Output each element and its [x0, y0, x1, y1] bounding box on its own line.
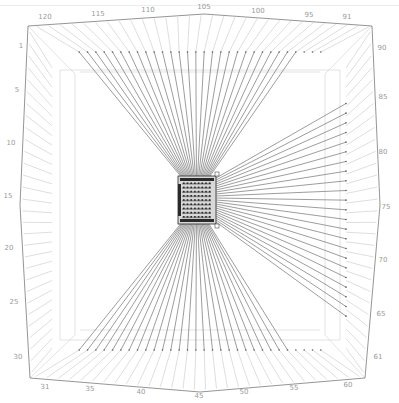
- pin-label-right: 80: [379, 148, 388, 156]
- pin-label-left: 30: [14, 353, 23, 361]
- pin-label-bottom: 50: [240, 388, 249, 396]
- pin-label-left: 10: [7, 139, 16, 147]
- pin-label-bottom: 45: [195, 392, 204, 400]
- pin-label-bottom: 40: [137, 388, 146, 396]
- pin-label-right: 70: [379, 256, 388, 264]
- pin-label-bottom: 60: [344, 381, 353, 389]
- pin-label-top: 105: [197, 3, 210, 11]
- pin-label-right: 65: [377, 310, 386, 318]
- pin-label-left: 25: [10, 298, 19, 306]
- pin-label-left: 15: [4, 192, 13, 200]
- pin-label-right: 90: [378, 44, 387, 52]
- pin-label-bottom: 55: [290, 384, 299, 392]
- pin-label-top: 120: [38, 13, 51, 21]
- pin-label-left: 20: [5, 244, 14, 252]
- pin-label-bottom: 35: [86, 385, 95, 393]
- pin-label-top: 95: [305, 11, 314, 19]
- pin-label-left: 5: [15, 86, 19, 94]
- package-diagram: 1201151101051009591908580757065616055504…: [0, 0, 399, 403]
- pin-label-right: 75: [382, 203, 391, 211]
- pin-label-top: 110: [141, 6, 154, 14]
- pin-label-top: 115: [91, 10, 104, 18]
- pin-label-top: 100: [251, 7, 264, 15]
- pin-label-right: 61: [374, 353, 383, 361]
- pin-label-left: 1: [19, 42, 23, 50]
- chip-die: [178, 172, 219, 228]
- pin-label-right: 85: [379, 93, 388, 101]
- pin-label-top: 91: [343, 13, 352, 21]
- pin-label-bottom: 31: [41, 383, 50, 391]
